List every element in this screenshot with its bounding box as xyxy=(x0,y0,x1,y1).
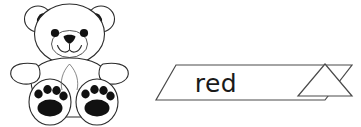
color-word-label: red xyxy=(195,69,237,98)
toe-pad xyxy=(34,90,42,99)
toe-pad xyxy=(90,85,98,94)
toe-pad xyxy=(59,92,67,101)
worksheet-card: red xyxy=(0,0,361,127)
eye-left-icon xyxy=(51,29,59,37)
teddy-bear-illustration xyxy=(0,0,152,127)
toe-pad xyxy=(52,86,60,95)
toe-pad xyxy=(99,86,107,95)
arm-left xyxy=(11,63,40,84)
toe-pad xyxy=(106,92,114,101)
eye-right-icon xyxy=(80,29,88,37)
toe-pad xyxy=(81,90,89,99)
toe-pad xyxy=(43,85,51,94)
color-word-banner: red xyxy=(148,48,361,110)
main-pad xyxy=(85,100,110,117)
main-pad xyxy=(38,100,63,117)
